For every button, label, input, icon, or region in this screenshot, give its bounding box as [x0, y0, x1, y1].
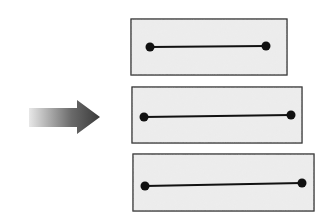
segment-panel-3 [133, 154, 314, 211]
line-segment [150, 46, 266, 47]
endpoint-left [146, 43, 155, 52]
endpoint-left [141, 182, 150, 191]
endpoint-right [287, 111, 296, 120]
right-arrow-icon [29, 100, 100, 134]
endpoint-right [298, 179, 307, 188]
endpoint-left [140, 113, 149, 122]
segment-panel-2 [132, 87, 302, 143]
segment-panel-1 [131, 19, 287, 75]
endpoint-right [262, 42, 271, 51]
diagram-canvas [0, 0, 322, 217]
